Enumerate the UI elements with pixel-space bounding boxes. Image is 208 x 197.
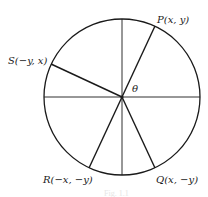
angle-theta-label: θ bbox=[132, 83, 138, 94]
radius-to-r bbox=[89, 97, 122, 168]
radius-to-s bbox=[51, 64, 122, 97]
point-q-label: Q(x, −y) bbox=[156, 174, 198, 185]
point-s-label: S(−y, x) bbox=[8, 55, 47, 66]
radius-to-p bbox=[122, 26, 155, 97]
point-p-label: P(x, y) bbox=[156, 14, 189, 25]
figure-caption: Fig. 1.1 bbox=[104, 189, 129, 197]
point-r-label: R(−x, −y) bbox=[42, 174, 93, 185]
center-point bbox=[120, 95, 123, 98]
radius-to-q bbox=[122, 97, 155, 168]
unit-circle-diagram: θ P(x, y) S(−y, x) R(−x, −y) Q(x, −y) Fi… bbox=[0, 0, 208, 197]
